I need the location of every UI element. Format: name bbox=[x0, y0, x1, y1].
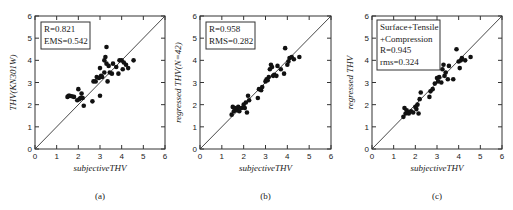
y-tick-label: 3 bbox=[365, 79, 370, 88]
data-point bbox=[79, 91, 84, 96]
data-point bbox=[275, 64, 280, 69]
data-point bbox=[282, 71, 287, 76]
data-point bbox=[90, 99, 95, 104]
x-tick-label: 4 bbox=[285, 152, 290, 161]
data-point bbox=[120, 67, 125, 72]
data-point bbox=[246, 94, 251, 99]
x-tick-label: 2 bbox=[241, 152, 246, 161]
figure: 01234560123456R=0.821EMS=0.542subjective… bbox=[0, 0, 513, 210]
y-tick-label: 5 bbox=[28, 34, 33, 43]
data-point bbox=[418, 90, 423, 95]
x-axis-label: subjectiveTHV bbox=[74, 163, 128, 173]
data-point bbox=[447, 64, 452, 69]
data-point bbox=[98, 66, 103, 71]
x-tick-label: 1 bbox=[54, 152, 59, 161]
x-tick-label: 4 bbox=[456, 152, 461, 161]
data-point bbox=[111, 61, 116, 66]
y-tick-label: 1 bbox=[28, 123, 33, 132]
y-tick-label: 1 bbox=[365, 123, 370, 132]
x-tick-label: 3 bbox=[435, 152, 440, 161]
x-tick-label: 3 bbox=[98, 152, 103, 161]
data-point bbox=[106, 64, 111, 69]
panel-caption: (c) bbox=[432, 191, 442, 201]
y-tick-label: 2 bbox=[193, 101, 198, 110]
legend-entry: Surface+Tensile bbox=[380, 22, 438, 32]
y-tick-label: 6 bbox=[28, 12, 33, 21]
data-point bbox=[427, 95, 432, 100]
data-point bbox=[116, 71, 121, 76]
legend-entry: RMS=0.282 bbox=[209, 36, 253, 46]
y-tick-label: 0 bbox=[28, 145, 33, 154]
x-tick-label: 0 bbox=[33, 152, 38, 161]
data-point bbox=[451, 77, 456, 82]
y-axis-label: THV(KN301W) bbox=[8, 54, 18, 110]
y-axis-label: regressed THV bbox=[345, 54, 355, 109]
y-tick-label: 4 bbox=[365, 56, 370, 65]
legend-entry: R=0.821 bbox=[44, 24, 75, 34]
x-axis-label: subjectiveTHV bbox=[239, 163, 293, 173]
data-point bbox=[247, 98, 252, 103]
y-tick-label: 6 bbox=[365, 12, 370, 21]
data-point bbox=[72, 95, 77, 100]
data-point bbox=[417, 97, 422, 102]
panel-b: 01234560123456R=0.958RMS=0.282subjective… bbox=[173, 12, 334, 201]
y-tick-label: 4 bbox=[28, 56, 33, 65]
panel-a: 01234560123456R=0.821EMS=0.542subjective… bbox=[8, 12, 168, 201]
legend-entry: R=0.958 bbox=[209, 24, 241, 34]
x-tick-label: 4 bbox=[119, 152, 124, 161]
data-point bbox=[105, 79, 110, 84]
data-point bbox=[256, 96, 261, 101]
data-point bbox=[100, 75, 105, 80]
data-point bbox=[242, 106, 247, 111]
data-point bbox=[266, 75, 271, 80]
legend-entry: +Compression bbox=[380, 34, 433, 44]
data-point bbox=[463, 58, 468, 63]
data-point bbox=[441, 62, 446, 67]
y-tick-label: 2 bbox=[28, 101, 33, 110]
data-point bbox=[439, 80, 444, 85]
y-tick-label: 1 bbox=[193, 123, 198, 132]
x-tick-label: 1 bbox=[391, 152, 396, 161]
data-point bbox=[415, 102, 420, 107]
panel-caption: (a) bbox=[95, 191, 105, 201]
panel-c: 01234560123456Surface+Tensile+Compressio… bbox=[345, 12, 505, 201]
x-tick-label: 5 bbox=[478, 152, 483, 161]
data-point bbox=[416, 111, 421, 116]
data-point bbox=[93, 79, 98, 84]
x-tick-label: 0 bbox=[198, 152, 203, 161]
y-tick-label: 2 bbox=[365, 101, 370, 110]
x-tick-label: 2 bbox=[76, 152, 81, 161]
data-point bbox=[278, 67, 283, 72]
x-tick-label: 5 bbox=[141, 152, 146, 161]
data-point bbox=[411, 110, 416, 115]
data-point bbox=[454, 47, 459, 52]
legend-box: R=0.958RMS=0.282 bbox=[206, 22, 255, 49]
y-tick-label: 3 bbox=[28, 79, 33, 88]
data-point bbox=[260, 85, 265, 90]
legend-entry: rms=0.324 bbox=[380, 57, 419, 67]
y-tick-label: 0 bbox=[365, 145, 370, 154]
data-point bbox=[110, 71, 115, 76]
x-tick-label: 6 bbox=[163, 152, 168, 161]
y-tick-label: 5 bbox=[193, 34, 198, 43]
data-point bbox=[437, 75, 442, 80]
data-point bbox=[292, 57, 297, 62]
y-tick-label: 6 bbox=[193, 12, 198, 21]
data-point bbox=[443, 70, 448, 75]
y-tick-label: 3 bbox=[193, 79, 198, 88]
data-point bbox=[104, 45, 109, 50]
x-tick-label: 5 bbox=[307, 152, 312, 161]
data-point bbox=[274, 74, 279, 79]
data-point bbox=[81, 103, 86, 108]
data-point bbox=[245, 110, 250, 115]
data-point bbox=[80, 96, 85, 101]
x-tick-label: 3 bbox=[263, 152, 268, 161]
y-tick-label: 4 bbox=[193, 56, 198, 65]
data-point bbox=[440, 67, 445, 72]
data-point bbox=[414, 107, 419, 112]
y-tick-label: 0 bbox=[193, 145, 198, 154]
data-point bbox=[270, 65, 275, 70]
data-point bbox=[446, 77, 451, 82]
data-point bbox=[131, 58, 136, 63]
data-point bbox=[103, 55, 108, 60]
